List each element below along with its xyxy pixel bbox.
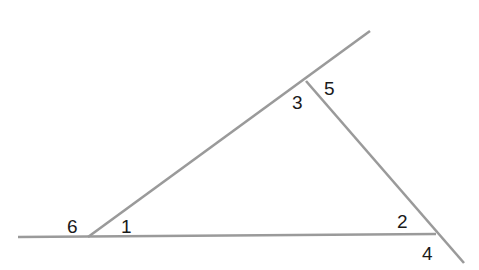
angle-label-2: 2 xyxy=(397,211,408,232)
angle-label-4: 4 xyxy=(422,243,433,264)
angle-label-5: 5 xyxy=(324,78,335,99)
angle-label-1: 1 xyxy=(121,216,132,237)
left-side-line xyxy=(88,31,370,237)
base-line xyxy=(18,234,436,237)
angle-label-3: 3 xyxy=(292,92,303,113)
triangle-diagram: 1 2 3 4 5 6 xyxy=(0,0,479,270)
angle-label-6: 6 xyxy=(67,216,78,237)
